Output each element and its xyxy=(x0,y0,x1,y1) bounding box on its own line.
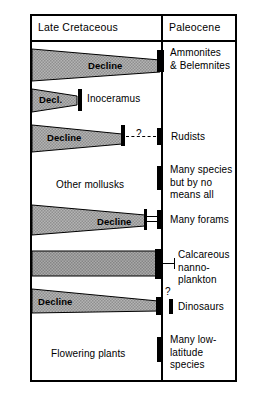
column-header-paleocene: Paleocene xyxy=(169,21,220,33)
terminator-bar-rudists-right xyxy=(157,128,163,145)
terminator-bar-flowering-plants xyxy=(157,337,163,362)
band-nannoplankton-bar xyxy=(32,250,162,282)
left-label-other-mollusks: Other mollusks xyxy=(56,179,124,190)
right-label-rudists: Rudists xyxy=(171,131,205,144)
terminator-bar-dinosaurs-left xyxy=(156,297,163,315)
uncertainty-question-mark-dinosaurs: ? xyxy=(165,287,171,297)
terminator-bar-forams-right xyxy=(157,210,163,229)
right-label-forams: Many forams xyxy=(170,214,229,227)
right-label-flowering-plants: Many low- latitude species xyxy=(170,334,216,372)
terminator-bar-rudists-left xyxy=(121,125,125,146)
terminator-bar-ammonites xyxy=(157,50,164,72)
uncertainty-question-mark-rudists: ? xyxy=(136,129,142,139)
terminator-bar-inoceramus xyxy=(78,89,82,111)
band-label-rudists: Decline xyxy=(47,132,82,143)
band-label-ammonites: Decline xyxy=(88,60,123,71)
terminator-bar-forams-left xyxy=(144,209,147,230)
band-label-forams: Decline xyxy=(97,216,132,227)
terminator-bar-nannoplankton xyxy=(155,249,163,279)
extinction-chart: Late Cretaceous Paleocene Decline Ammoni… xyxy=(0,0,267,400)
right-label-dinosaurs: Dinosaurs xyxy=(178,301,224,314)
left-label-flowering-plants: Flowering plants xyxy=(51,348,125,359)
right-label-ammonites: Ammonites & Belemnites xyxy=(170,47,230,72)
column-header-late-cretaceous: Late Cretaceous xyxy=(38,21,118,33)
terminator-bar-dinosaurs-right xyxy=(169,299,173,314)
band-label-dinosaurs: Decline xyxy=(38,296,73,307)
terminator-bar-other-mollusks xyxy=(157,166,163,190)
nannoplankton-connector-tick xyxy=(174,258,175,269)
right-label-nannoplankton: Calcareous nanno- plankton xyxy=(178,249,230,287)
band-forams-wedge xyxy=(32,204,150,238)
band-label-inoceramus: Decl. xyxy=(39,94,62,105)
header-separator-rule xyxy=(30,40,237,42)
right-label-other-mollusks: Many species but by no means all xyxy=(170,164,232,202)
right-label-inoceramus: Inoceramus xyxy=(87,93,140,106)
